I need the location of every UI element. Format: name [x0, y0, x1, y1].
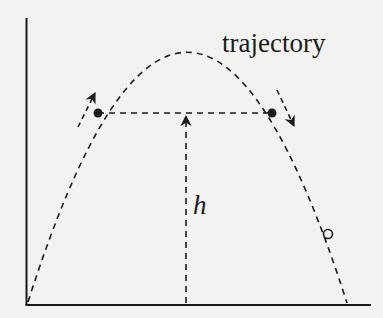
descending-point-dot [268, 109, 277, 118]
ascending-point-dot [94, 109, 103, 118]
open-point-circle [324, 230, 333, 239]
descending-arrow [277, 90, 294, 126]
trajectory-diagram: trajectory h [0, 0, 383, 318]
trajectory-curve [28, 52, 347, 303]
height-label: h [193, 190, 207, 220]
ascending-arrow [78, 93, 95, 127]
trajectory-label: trajectory [222, 28, 326, 58]
